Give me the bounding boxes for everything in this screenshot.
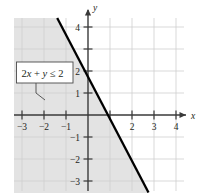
x-tick-label--2: −2	[39, 122, 49, 132]
shaded-solution-region	[14, 18, 149, 193]
y-tick-label--3: −3	[70, 177, 80, 187]
y-tick-label--1: −1	[70, 133, 80, 143]
x-tick-label--1: −1	[61, 122, 71, 132]
y-tick-label--2: −2	[70, 155, 80, 165]
callout-plus-sign: +	[31, 68, 42, 79]
callout-expression: 2x + y ≤ 2	[22, 68, 64, 79]
x-tick-label-3: 3	[152, 122, 157, 132]
callout-constant: 2	[58, 68, 63, 79]
y-tick-label-1: 1	[75, 89, 80, 99]
x-tick-label--3: −3	[17, 122, 27, 132]
x-tick-label-4: 4	[174, 122, 179, 132]
inequality-graph-figure: −3 −2 −1 2 3 4 4 2 1 −1 −2 −3 x y 2x + y…	[0, 0, 205, 193]
coordinate-plane: −3 −2 −1 2 3 4 4 2 1 −1 −2 −3 x y 2x + y…	[0, 0, 205, 193]
y-axis-name: y	[92, 3, 98, 13]
x-axis-arrowhead	[180, 112, 187, 118]
y-tick-label-2: 2	[75, 67, 80, 77]
x-tick-label-2: 2	[130, 122, 135, 132]
y-axis-arrowhead	[85, 9, 91, 16]
x-axis-name: x	[190, 111, 196, 121]
y-tick-label-4: 4	[75, 23, 80, 33]
callout-relation-sign: ≤	[47, 68, 58, 79]
